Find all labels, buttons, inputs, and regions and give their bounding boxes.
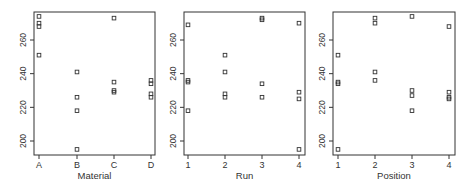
data-point-marker (297, 90, 301, 94)
data-point-marker (75, 109, 79, 113)
data-point-marker (75, 95, 79, 99)
data-point-marker (37, 15, 41, 19)
data-point-marker (75, 148, 79, 152)
data-point-marker (410, 109, 414, 113)
y-tick-label: 260 (317, 33, 327, 47)
data-point-marker (186, 23, 190, 27)
x-tick-label: 3 (259, 160, 264, 170)
x-tick-label: 1 (335, 160, 340, 170)
y-tick-label: 200 (317, 134, 327, 148)
data-point-marker (373, 70, 377, 74)
y-tick-label: 260 (18, 33, 28, 47)
y-tick-label: 240 (168, 66, 178, 80)
data-point-marker (223, 53, 227, 57)
data-point-marker (297, 148, 301, 152)
x-tick-label: D (148, 160, 155, 170)
data-point-marker (112, 16, 116, 20)
data-point-marker (223, 70, 227, 74)
plot-frame (34, 12, 155, 155)
y-tick-label: 220 (317, 100, 327, 114)
y-tick-label: 260 (168, 33, 178, 47)
y-tick-label: 220 (168, 100, 178, 114)
x-axis-label: Run (236, 170, 253, 181)
figure: 200220240260ABCDMaterial2002202402601234… (0, 0, 474, 189)
y-tick-label: 200 (168, 134, 178, 148)
plot-frame (184, 12, 305, 155)
data-point-marker (373, 21, 377, 25)
panel-position: 2002202402601234Position (317, 12, 455, 181)
data-point-marker (373, 16, 377, 20)
y-tick-label: 200 (18, 134, 28, 148)
y-tick-label: 240 (317, 66, 327, 80)
data-point-marker (297, 21, 301, 25)
x-tick-label: 4 (296, 160, 301, 170)
data-point-marker (260, 82, 264, 86)
data-point-marker (112, 80, 116, 84)
x-tick-label: 2 (372, 160, 377, 170)
data-point-marker (336, 148, 340, 152)
x-axis-label: Material (78, 170, 112, 181)
plot-frame (333, 12, 455, 155)
panel-material: 200220240260ABCDMaterial (18, 12, 155, 181)
data-point-marker (447, 25, 451, 29)
data-point-marker (186, 109, 190, 113)
x-tick-label: 2 (222, 160, 227, 170)
data-point-marker (37, 53, 41, 57)
data-point-marker (297, 97, 301, 101)
x-tick-label: 3 (409, 160, 414, 170)
data-point-marker (75, 70, 79, 74)
data-point-marker (260, 95, 264, 99)
data-point-marker (336, 53, 340, 57)
y-tick-label: 240 (18, 66, 28, 80)
data-point-marker (410, 15, 414, 19)
x-tick-label: 1 (185, 160, 190, 170)
x-tick-label: 4 (446, 160, 451, 170)
x-tick-label: B (74, 160, 80, 170)
data-point-marker (447, 90, 451, 94)
x-axis-label: Position (377, 170, 411, 181)
panel-run: 2002202402601234Run (168, 12, 305, 181)
y-tick-label: 220 (18, 100, 28, 114)
x-tick-label: A (36, 160, 42, 170)
data-point-marker (410, 89, 414, 93)
data-point-marker (410, 94, 414, 98)
data-point-marker (373, 79, 377, 83)
x-tick-label: C (111, 160, 118, 170)
